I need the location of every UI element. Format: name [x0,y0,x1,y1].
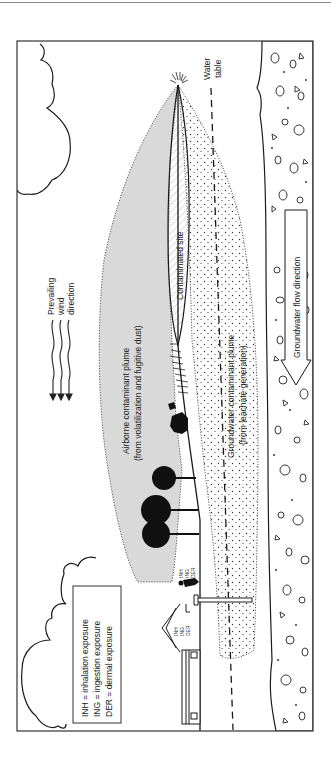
house-receptor-der: DER [185,625,191,636]
house-icon [162,604,200,724]
groundwater-flow-label: Groundwater flow direction [292,257,302,358]
person-receptor-der: DER [190,567,196,578]
legend-item-der: DER = dermal exposure [104,626,114,717]
groundwater-plume-sublabel: (from leachate generation) [238,345,248,445]
legend-item-ing: ING = ingestion exposure [92,621,102,717]
person-icon [179,578,200,587]
bedrock-layer [257,41,313,731]
legend-item-inh: INH = inhalation exposure [80,619,90,717]
water-table-label-line2: table [213,59,223,78]
wind-arrows-icon [50,320,72,400]
wind-label-line1: Prevailing [46,277,56,315]
groundwater-plume-label: Groundwater contaminant plume [226,334,236,458]
cloud-icon [17,44,70,194]
wind-label-line2: wind [56,297,66,316]
wind-label-line3: direction [66,283,76,315]
contaminant-exposure-diagram: INH = inhalation exposure ING = ingestio… [0,0,331,765]
airborne-plume-sublabel: (from volatilization and fugitive dust) [133,325,143,461]
water-table-label-line1: Water [202,57,212,80]
contaminated-site-label: Contaminated site [175,231,185,300]
airborne-plume-label: Airborne contaminant plume [121,347,131,454]
